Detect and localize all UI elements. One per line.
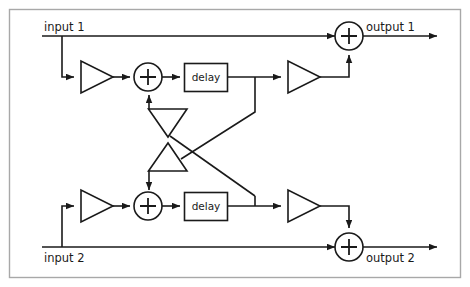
signal-flow-diagram: delay bbox=[0, 0, 470, 287]
gain-feedback-cross-bottom bbox=[149, 143, 188, 171]
wire-input2-branch bbox=[62, 206, 74, 247]
wire-gain-out2-to-adder bbox=[320, 206, 349, 228]
diagram-frame bbox=[10, 10, 461, 278]
block-diagram-canvas: delay bbox=[0, 0, 470, 287]
wire-gain-out1-to-adder bbox=[320, 55, 349, 77]
label-output-1: output 1 bbox=[366, 20, 415, 34]
delay-block-bottom-label: delay bbox=[192, 200, 221, 212]
gain-input-1 bbox=[81, 61, 113, 93]
label-input-1: input 1 bbox=[44, 20, 85, 34]
delay-block-top-label: delay bbox=[192, 71, 221, 83]
gain-input-2 bbox=[81, 190, 113, 222]
label-input-2: input 2 bbox=[44, 251, 85, 265]
label-output-2: output 2 bbox=[366, 251, 415, 265]
gain-output-2 bbox=[288, 190, 320, 222]
wire-input1-branch bbox=[62, 36, 74, 77]
gain-feedback-cross-top bbox=[149, 109, 188, 137]
gain-output-1 bbox=[288, 61, 320, 93]
